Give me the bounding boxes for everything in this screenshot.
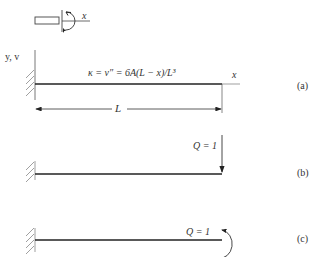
panel-a-tag: (a) xyxy=(297,81,308,91)
curvature-formula: κ = v″ = 6A(L − x)/L³ xyxy=(88,68,176,78)
length-dimension-label: L xyxy=(115,103,121,114)
point-load-label: Q = 1 xyxy=(193,141,217,151)
moment-arrow xyxy=(218,230,232,257)
moment-load-label: Q = 1 xyxy=(186,227,210,237)
fixed-support-hatch-a xyxy=(26,70,34,96)
cantilever-beam-diagram: x y, v κ = v″ = 6A(L − x)/L³ x (a) L Q =… xyxy=(0,0,325,257)
sign-convention-x-label: x xyxy=(82,11,86,21)
panel-b-tag: (b) xyxy=(297,168,309,178)
x-axis-label: x xyxy=(232,70,236,80)
fixed-support-hatch-c xyxy=(26,228,34,254)
y-axis-label: y, v xyxy=(5,52,19,62)
panel-a-graphics xyxy=(26,50,240,113)
fixed-support-hatch-b xyxy=(26,162,34,182)
panel-c-tag: (c) xyxy=(297,234,308,244)
diagram-graphics xyxy=(0,0,325,257)
